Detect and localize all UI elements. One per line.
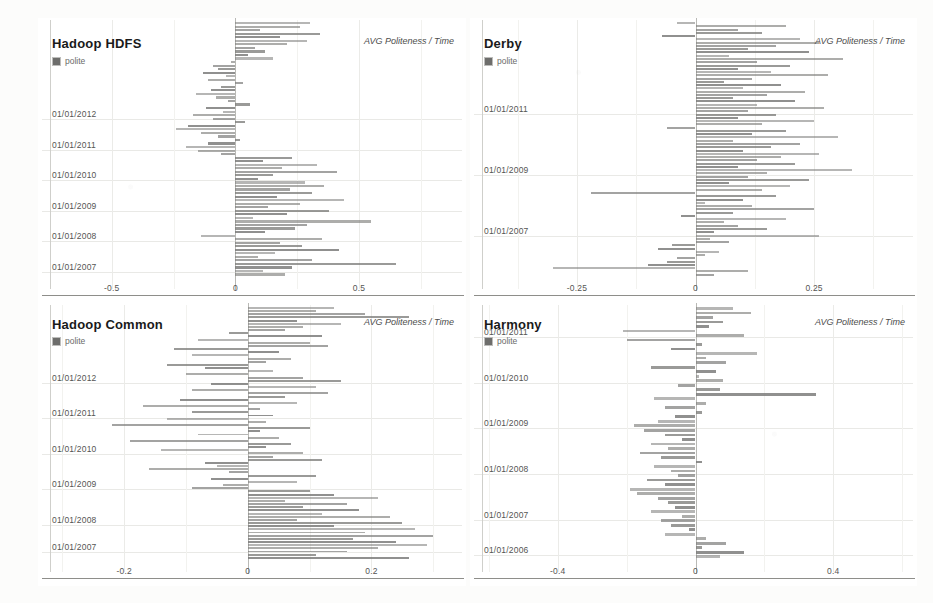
bar[interactable] — [248, 452, 304, 454]
bar[interactable] — [167, 364, 247, 366]
bar[interactable] — [248, 408, 260, 410]
bar[interactable] — [696, 208, 815, 210]
bar[interactable] — [235, 188, 289, 190]
bar[interactable] — [223, 484, 248, 486]
bar[interactable] — [248, 528, 415, 530]
bar[interactable] — [696, 555, 720, 558]
bar[interactable] — [696, 235, 819, 237]
bar[interactable] — [221, 86, 236, 88]
bar[interactable] — [235, 50, 265, 52]
bar[interactable] — [678, 474, 695, 477]
bar[interactable] — [235, 270, 262, 272]
bar[interactable] — [248, 351, 279, 353]
bar[interactable] — [186, 146, 235, 148]
bar[interactable] — [696, 78, 753, 80]
bar[interactable] — [235, 29, 260, 31]
bar[interactable] — [235, 160, 262, 162]
bar[interactable] — [682, 515, 696, 518]
bar[interactable] — [696, 334, 744, 337]
bar[interactable] — [696, 100, 796, 102]
bar[interactable] — [630, 488, 695, 491]
bar[interactable] — [677, 257, 696, 259]
bar[interactable] — [696, 120, 815, 122]
bar[interactable] — [696, 321, 724, 324]
bar[interactable] — [211, 478, 248, 480]
bar[interactable] — [665, 406, 696, 409]
bar[interactable] — [696, 379, 724, 382]
bar[interactable] — [235, 206, 267, 208]
bar[interactable] — [235, 242, 280, 244]
bar[interactable] — [205, 462, 248, 464]
bar[interactable] — [696, 74, 829, 76]
bar[interactable] — [696, 176, 748, 178]
bar[interactable] — [591, 192, 695, 194]
bar[interactable] — [235, 33, 319, 35]
bar[interactable] — [696, 61, 758, 63]
bar[interactable] — [248, 456, 273, 458]
bar[interactable] — [192, 389, 248, 391]
bar[interactable] — [696, 91, 805, 93]
bar[interactable] — [235, 157, 292, 159]
bar[interactable] — [647, 479, 695, 482]
bar[interactable] — [696, 212, 734, 214]
bar[interactable] — [248, 443, 291, 445]
bar[interactable] — [248, 554, 316, 556]
bar[interactable] — [696, 140, 734, 142]
bar[interactable] — [696, 251, 720, 253]
bar[interactable] — [248, 430, 260, 432]
bar[interactable] — [696, 81, 724, 83]
bar[interactable] — [235, 192, 312, 194]
bar[interactable] — [696, 51, 810, 53]
bar[interactable] — [235, 57, 272, 59]
bar[interactable] — [696, 87, 743, 89]
bar[interactable] — [696, 375, 699, 378]
bar[interactable] — [248, 427, 310, 429]
bar[interactable] — [696, 107, 824, 109]
legend-harmony[interactable]: polite — [484, 336, 517, 346]
bar[interactable] — [644, 429, 696, 432]
bar[interactable] — [248, 532, 365, 534]
bar[interactable] — [213, 118, 235, 120]
bar[interactable] — [672, 244, 696, 246]
bar[interactable] — [228, 100, 235, 102]
bar[interactable] — [248, 535, 433, 537]
bar[interactable] — [696, 388, 720, 391]
bar[interactable] — [696, 38, 800, 40]
bar[interactable] — [174, 348, 248, 350]
bar[interactable] — [248, 551, 347, 553]
chart-panel-harmony[interactable]: 01/01/201101/01/201001/01/200901/01/2008… — [470, 303, 917, 586]
bar[interactable] — [696, 143, 800, 145]
bar[interactable] — [149, 468, 248, 470]
bar[interactable] — [661, 456, 695, 459]
bar[interactable] — [248, 509, 359, 511]
bar[interactable] — [218, 68, 235, 70]
bar[interactable] — [696, 238, 710, 240]
bar[interactable] — [196, 93, 236, 95]
bar[interactable] — [696, 343, 703, 346]
bar[interactable] — [696, 352, 758, 355]
bar[interactable] — [235, 164, 317, 166]
legend-derby[interactable]: polite — [484, 56, 517, 66]
bar[interactable] — [248, 500, 285, 502]
bar[interactable] — [248, 544, 427, 546]
bar[interactable] — [213, 65, 235, 67]
bar[interactable] — [634, 424, 696, 427]
bar[interactable] — [696, 537, 706, 540]
bar[interactable] — [696, 97, 734, 99]
bar[interactable] — [235, 167, 282, 169]
bar[interactable] — [208, 79, 235, 81]
bar[interactable] — [248, 525, 335, 527]
bar[interactable] — [248, 380, 341, 382]
bar[interactable] — [248, 392, 328, 394]
bar[interactable] — [193, 114, 235, 116]
bar[interactable] — [229, 332, 248, 334]
bar[interactable] — [112, 424, 248, 426]
bar[interactable] — [248, 459, 322, 461]
bar[interactable] — [696, 316, 713, 319]
bar[interactable] — [192, 411, 248, 413]
bar[interactable] — [211, 89, 236, 91]
bar[interactable] — [235, 174, 272, 176]
bar[interactable] — [696, 231, 715, 233]
bar[interactable] — [696, 357, 706, 360]
bar[interactable] — [696, 270, 748, 272]
